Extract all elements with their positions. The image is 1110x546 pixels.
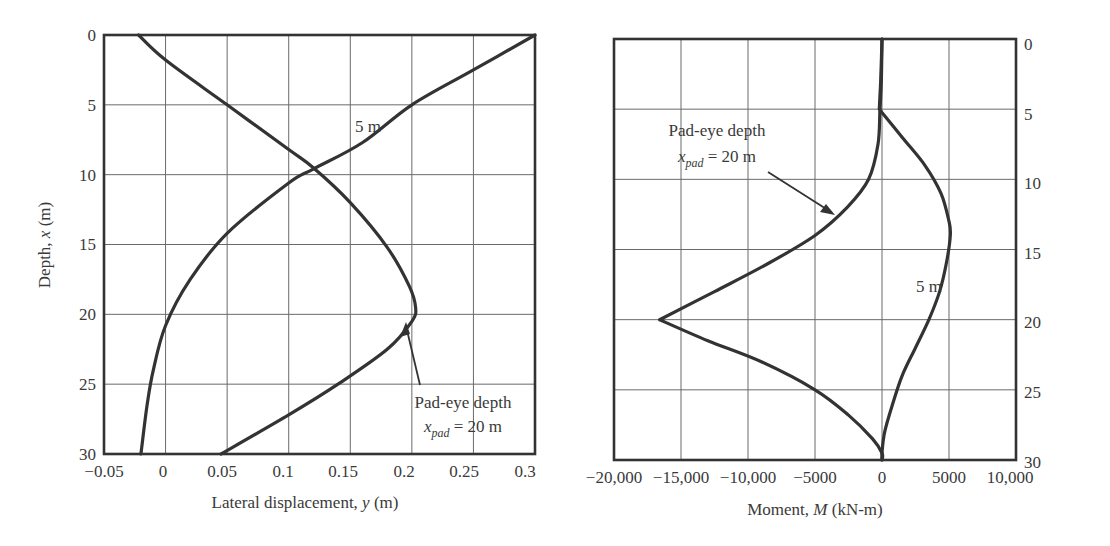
y-tick-label: 10 — [79, 166, 96, 185]
x-tick-label: −5000 — [793, 468, 837, 487]
moment-x-axis-label: Moment, M (kN-m) — [747, 500, 883, 519]
y-tick-label: 10 — [1024, 174, 1041, 193]
displacement-label-5m: 5 m — [355, 117, 381, 136]
y-tick-label: 25 — [79, 375, 96, 394]
moment-chart: −20,000 −15,000 −10,000 −5000 0 5000 10,… — [586, 35, 1041, 519]
x-tick-label: 0.15 — [328, 462, 358, 481]
y-tick-label: 20 — [1024, 313, 1041, 332]
x-tick-label: 0.25 — [449, 462, 479, 481]
figure-svg: −0.05 0 0.05 0.1 0.15 0.2 0.25 0.3 0 5 1… — [0, 0, 1110, 546]
x-tick-label: −15,000 — [653, 468, 709, 487]
y-tick-label: 30 — [1024, 453, 1041, 472]
moment-pad-eye-annotation: Pad-eye depth xpad = 20 m — [669, 121, 835, 215]
x-tick-label: −0.05 — [84, 462, 123, 481]
y-tick-label: 15 — [79, 235, 96, 254]
y-tick-label: 0 — [88, 26, 97, 45]
figure: −0.05 0 0.05 0.1 0.15 0.2 0.25 0.3 0 5 1… — [0, 0, 1110, 546]
pad-eye-depth-label: Pad-eye depth — [415, 393, 512, 412]
displacement-chart: −0.05 0 0.05 0.1 0.15 0.2 0.25 0.3 0 5 1… — [35, 26, 536, 512]
pad-eye-depth-label: Pad-eye depth — [669, 121, 766, 140]
x-tick-label: 0 — [159, 462, 168, 481]
moment-gridlines — [614, 39, 1016, 460]
moment-x-tick-labels: −20,000 −15,000 −10,000 −5000 0 5000 10,… — [586, 468, 1034, 487]
x-tick-label: 0.2 — [393, 462, 414, 481]
x-tick-label: 0.1 — [272, 462, 293, 481]
x-tick-label: 0.05 — [207, 462, 237, 481]
y-tick-label: 0 — [1024, 35, 1033, 54]
y-tick-label: 5 — [1024, 105, 1033, 124]
moment-y-tick-labels: 0 5 10 15 20 25 30 — [1024, 35, 1041, 472]
moment-label-5m: 5 m — [916, 277, 942, 296]
displacement-x-tick-labels: −0.05 0 0.05 0.1 0.15 0.2 0.25 0.3 — [84, 462, 535, 481]
displacement-gridlines — [104, 35, 535, 454]
x-tick-label: 0 — [878, 468, 887, 487]
y-tick-label: 20 — [79, 305, 96, 324]
y-tick-label: 15 — [1024, 244, 1041, 263]
x-tick-label: 5000 — [932, 468, 966, 487]
displacement-y-tick-labels: 0 5 10 15 20 25 30 — [79, 26, 96, 464]
x-tick-label: −20,000 — [586, 468, 642, 487]
y-tick-label: 5 — [88, 96, 97, 115]
displacement-pad-eye-annotation: Pad-eye depth xpad = 20 m — [400, 322, 512, 440]
pad-eye-value-label: xpad = 20 m — [423, 417, 502, 440]
y-tick-label: 25 — [1024, 383, 1041, 402]
x-tick-label: −10,000 — [720, 468, 776, 487]
arrow-line — [768, 172, 831, 212]
pad-eye-value-label: xpad = 20 m — [677, 147, 756, 170]
displacement-x-axis-label: Lateral displacement, y (m) — [212, 493, 399, 512]
displacement-y-axis-label: Depth, x (m) — [35, 202, 54, 288]
x-tick-label: 0.3 — [514, 462, 535, 481]
arrow-line — [406, 326, 420, 385]
y-tick-label: 30 — [79, 445, 96, 464]
